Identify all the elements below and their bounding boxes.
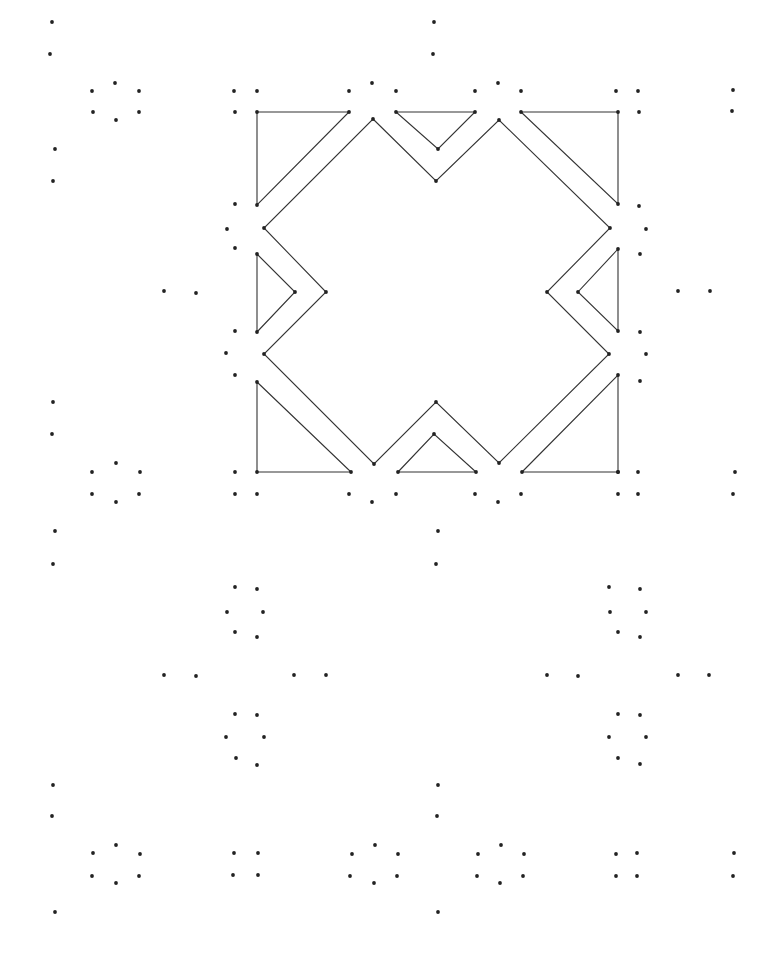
triangle-top-left <box>257 112 349 205</box>
grid-dot <box>496 81 500 85</box>
grid-dot <box>114 461 118 465</box>
grid-dot <box>232 851 236 855</box>
vertex-dot <box>349 470 353 474</box>
grid-dot <box>255 89 259 93</box>
vertex-dot <box>497 118 501 122</box>
dots-layer <box>48 20 737 914</box>
vertex-dot <box>293 290 297 294</box>
grid-dot <box>616 712 620 716</box>
grid-dot <box>261 610 265 614</box>
grid-dot <box>348 874 352 878</box>
grid-dot <box>138 852 142 856</box>
pattern-diagram <box>0 0 757 971</box>
grid-dot <box>137 492 141 496</box>
grid-dot <box>394 492 398 496</box>
grid-dot <box>347 492 351 496</box>
grid-dot <box>614 874 618 878</box>
vertex-dot <box>255 380 259 384</box>
grid-dot <box>519 492 523 496</box>
grid-dot <box>233 492 237 496</box>
grid-dot <box>137 110 141 114</box>
grid-dot <box>194 674 198 678</box>
grid-dot <box>731 492 735 496</box>
grid-dot <box>644 735 648 739</box>
grid-dot <box>233 373 237 377</box>
grid-dot <box>395 874 399 878</box>
vertex-dot <box>474 470 478 474</box>
grid-dot <box>225 610 229 614</box>
grid-dot <box>255 635 259 639</box>
vertex-dot <box>255 330 259 334</box>
vertex-dot <box>262 352 266 356</box>
vertex-dot <box>434 179 438 183</box>
grid-dot <box>162 289 166 293</box>
grid-dot <box>90 89 94 93</box>
vertex-dot <box>255 110 259 114</box>
vertex-dot <box>255 470 259 474</box>
grid-dot <box>256 873 260 877</box>
grid-dot <box>370 81 374 85</box>
grid-dot <box>733 470 737 474</box>
grid-dot <box>113 81 117 85</box>
grid-dot <box>607 735 611 739</box>
grid-dot <box>638 635 642 639</box>
grid-dot <box>137 89 141 93</box>
cross-outline <box>264 119 610 464</box>
grid-dot <box>255 713 259 717</box>
vertex-dot <box>396 470 400 474</box>
grid-dot <box>262 735 266 739</box>
grid-dot <box>91 110 95 114</box>
grid-dot <box>350 852 354 856</box>
grid-dot <box>233 110 237 114</box>
grid-dot <box>616 470 620 474</box>
grid-dot <box>232 89 236 93</box>
vertex-dot <box>616 247 620 251</box>
grid-dot <box>638 252 642 256</box>
grid-dot <box>292 673 296 677</box>
grid-dot <box>432 20 436 24</box>
grid-dot <box>731 88 735 92</box>
grid-dot <box>614 89 618 93</box>
triangle-left <box>257 254 295 332</box>
vertex-dot <box>473 110 477 114</box>
grid-dot <box>233 712 237 716</box>
grid-dot <box>522 852 526 856</box>
grid-dot <box>233 585 237 589</box>
grid-dot <box>475 874 479 878</box>
vertex-dot <box>347 110 351 114</box>
triangle-right <box>578 249 618 331</box>
vertex-dot <box>607 352 611 356</box>
grid-dot <box>53 147 57 151</box>
vertex-dot <box>576 290 580 294</box>
grid-dot <box>233 329 237 333</box>
grid-dot <box>644 352 648 356</box>
grid-dot <box>233 202 237 206</box>
grid-dot <box>730 109 734 113</box>
grid-dot <box>473 89 477 93</box>
grid-dot <box>48 52 52 56</box>
vertex-dot <box>394 110 398 114</box>
grid-dot <box>732 851 736 855</box>
grid-dot <box>638 713 642 717</box>
grid-dot <box>138 470 142 474</box>
grid-dot <box>644 610 648 614</box>
grid-dot <box>707 673 711 677</box>
grid-dot <box>53 529 57 533</box>
grid-dot <box>644 227 648 231</box>
grid-dot <box>224 735 228 739</box>
vertex-dot <box>616 202 620 206</box>
grid-dot <box>616 630 620 634</box>
grid-dot <box>519 89 523 93</box>
grid-dot <box>396 852 400 856</box>
grid-dot <box>162 673 166 677</box>
grid-dot <box>372 881 376 885</box>
vertex-dot <box>616 329 620 333</box>
grid-dot <box>114 118 118 122</box>
shapes-layer <box>257 112 618 472</box>
grid-dot <box>676 289 680 293</box>
grid-dot <box>576 674 580 678</box>
grid-dot <box>434 562 438 566</box>
grid-dot <box>521 874 525 878</box>
grid-dot <box>476 852 480 856</box>
triangle-bottom-right <box>522 375 618 472</box>
